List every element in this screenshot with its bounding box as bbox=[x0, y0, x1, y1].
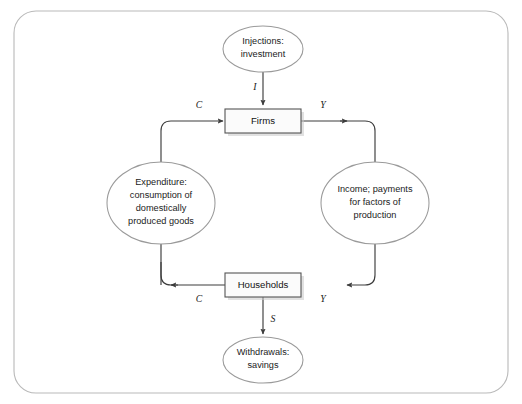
expenditure-line-2: consumption of bbox=[130, 190, 193, 200]
flow-label-expenditure-top-C: C bbox=[196, 99, 203, 110]
expenditure-line-4: produced goods bbox=[128, 216, 194, 226]
box-node-firms[interactable]: Firms bbox=[225, 109, 304, 136]
withdrawals-line-1: Withdrawals: bbox=[237, 347, 290, 357]
income-line-3: production bbox=[354, 210, 397, 220]
expenditure-line-3: domestically bbox=[136, 203, 187, 213]
households-box-label: Households bbox=[238, 279, 289, 290]
circular-flow-diagram: Injections: investment Expenditure: cons… bbox=[0, 0, 522, 404]
expenditure-line-1: Expenditure: bbox=[135, 177, 187, 187]
ellipse-node-income[interactable]: Income; payments for factors of producti… bbox=[321, 162, 429, 244]
withdrawals-line-2: savings bbox=[247, 360, 279, 370]
flow-label-expenditure-bottom-C: C bbox=[196, 293, 203, 304]
flow-label-withdrawal-S: S bbox=[271, 313, 276, 324]
box-node-households[interactable]: Households bbox=[225, 273, 304, 300]
ellipse-node-withdrawals[interactable]: Withdrawals: savings bbox=[223, 337, 303, 383]
ellipse-node-injections[interactable]: Injections: investment bbox=[223, 26, 303, 72]
firms-box-label: Firms bbox=[251, 115, 275, 126]
income-line-1: Income; payments bbox=[337, 184, 412, 194]
injections-line-2: investment bbox=[241, 49, 286, 59]
income-line-2: for factors of bbox=[349, 197, 401, 207]
diagram-page: Injections: investment Expenditure: cons… bbox=[0, 0, 522, 404]
ellipse-node-expenditure[interactable]: Expenditure: consumption of domestically… bbox=[107, 162, 215, 244]
flow-label-injection-I: I bbox=[252, 81, 257, 92]
injections-line-1: Injections: bbox=[242, 36, 283, 46]
